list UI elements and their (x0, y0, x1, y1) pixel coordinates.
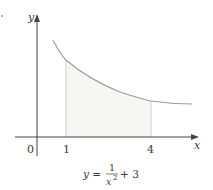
equation-rhs: + 3 (120, 168, 139, 180)
x-axis-label: x (194, 139, 201, 152)
equation-denominator-exponent: 2 (113, 174, 117, 182)
function-graph: y x 0 1 4 y = 1 x 2 + 3 (0, 0, 213, 190)
equation-lhs: y = (82, 168, 101, 180)
equation-numerator: 1 (109, 162, 115, 173)
tick-label-4: 4 (147, 143, 154, 156)
decorative-dot (1, 15, 3, 17)
shaded-area-region (66, 60, 151, 137)
y-axis-label: y (27, 11, 35, 24)
equation-denominator-base: x (106, 176, 112, 187)
y-axis-arrow-icon (34, 14, 40, 22)
tick-label-1: 1 (63, 143, 70, 156)
origin-label: 0 (27, 143, 34, 156)
